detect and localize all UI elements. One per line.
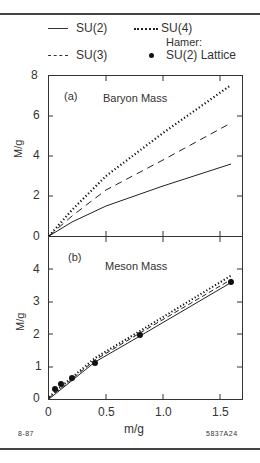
yb-tick-3: 3: [33, 294, 40, 308]
footer-right-code: 5837A24: [206, 430, 238, 437]
meson-su2: [49, 282, 232, 399]
yb-tick-1: 1: [35, 359, 42, 373]
x-axis-label: m/g: [124, 422, 144, 436]
yb-ylabel: M/g: [14, 313, 26, 331]
ya-tick-4: 4: [33, 148, 40, 162]
x-tick-1-5: 1.5: [212, 405, 229, 419]
baryon-su3: [49, 123, 231, 236]
ya-tick-0: 0: [33, 229, 40, 243]
meson-su3: [49, 279, 232, 398]
x-tick-0: 0: [45, 405, 52, 419]
panel-a-title: Baryon Mass: [103, 92, 167, 104]
panel-b-title: Meson Mass: [105, 260, 167, 272]
panel-a-label: (a): [64, 90, 77, 102]
yb-tick-0: 0: [33, 391, 40, 405]
baryon-su4: [49, 85, 231, 236]
panel-b-label: (b): [68, 251, 81, 263]
baryon-su2: [49, 164, 231, 236]
ya-ylabel: M/g: [12, 140, 24, 158]
x-tick-1-0: 1.0: [155, 405, 172, 419]
ya-tick-6: 6: [33, 108, 40, 122]
footer-left-code: 8-87: [18, 430, 34, 437]
ya-tick-8: 8: [31, 68, 38, 82]
yb-tick-2: 2: [33, 327, 40, 341]
ya-tick-2: 2: [33, 188, 40, 202]
x-tick-0-5: 0.5: [98, 405, 115, 419]
yb-tick-4: 4: [33, 262, 40, 276]
